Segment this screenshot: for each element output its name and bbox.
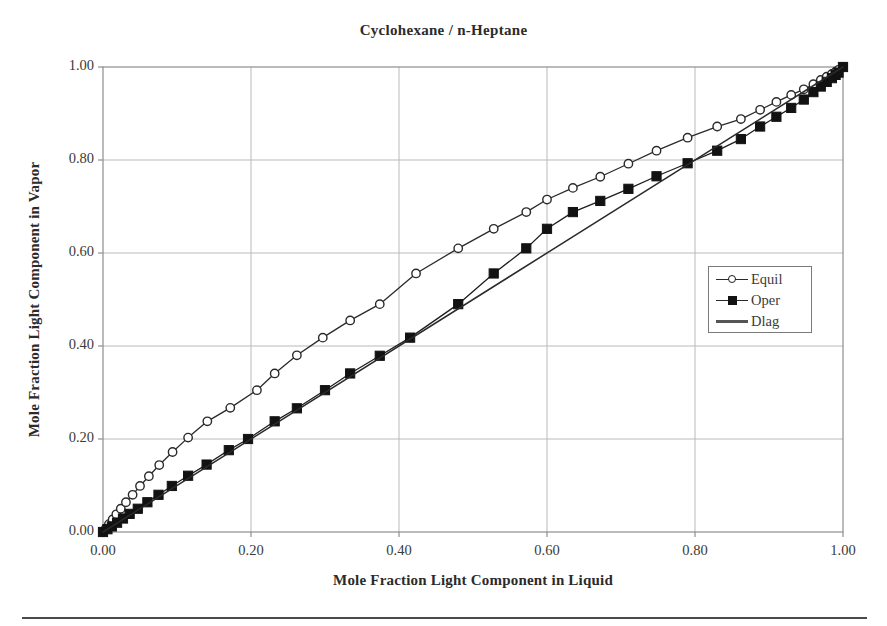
legend-swatch-dlag xyxy=(715,314,749,330)
filled-square-marker-icon xyxy=(728,296,737,305)
legend-label-dlag: Dlag xyxy=(751,313,779,330)
x-tick-label: 0.80 xyxy=(665,542,725,559)
x-tick-label: 1.00 xyxy=(813,542,873,559)
y-tick-label: 0.20 xyxy=(44,429,94,446)
y-tick-label: 1.00 xyxy=(44,57,94,74)
y-tick-label: 0.40 xyxy=(44,336,94,353)
legend-label-equil: Equil xyxy=(751,271,782,288)
bottom-divider xyxy=(22,617,867,619)
open-circle-marker-icon xyxy=(728,275,736,283)
x-tick-label: 0.20 xyxy=(221,542,281,559)
legend-item-dlag: Dlag xyxy=(715,311,779,332)
x-tick-label: 0.40 xyxy=(369,542,429,559)
legend-item-oper: Oper xyxy=(715,290,780,311)
y-tick-label: 0.60 xyxy=(44,243,94,260)
legend-swatch-equil xyxy=(715,272,749,288)
y-tick-label: 0.80 xyxy=(44,150,94,167)
y-tick-label: 0.00 xyxy=(44,522,94,539)
x-tick-label: 0.60 xyxy=(517,542,577,559)
chart-figure: Cyclohexane / n-Heptane Mole Fraction Li… xyxy=(0,0,887,626)
x-tick-label: 0.00 xyxy=(73,542,133,559)
chart-legend: Equil Oper Dlag xyxy=(708,266,812,333)
legend-item-equil: Equil xyxy=(715,269,782,290)
legend-label-oper: Oper xyxy=(751,292,780,309)
legend-swatch-oper xyxy=(715,293,749,309)
